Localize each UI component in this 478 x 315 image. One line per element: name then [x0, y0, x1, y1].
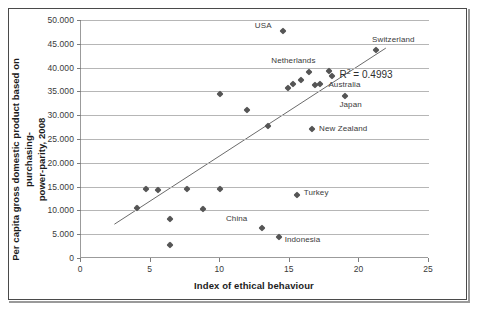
data-point	[258, 224, 265, 231]
data-point	[373, 47, 380, 54]
y-tick-label: 5.000	[52, 229, 74, 239]
x-tick-label: 25	[416, 264, 440, 274]
x-tick-label: 5	[138, 264, 162, 274]
y-tick-mark	[77, 139, 81, 140]
y-tick-label: 20.000	[47, 158, 74, 168]
data-point	[243, 107, 250, 114]
page-shadow-right	[468, 9, 470, 303]
x-axis-tick-labels: 0510152025	[80, 258, 428, 278]
y-tick-mark	[77, 115, 81, 116]
r-squared-annotation: R2 = 0.4993	[339, 68, 392, 80]
page-shadow-bottom	[9, 301, 470, 303]
x-tick-label: 10	[207, 264, 231, 274]
data-point-label: Japan	[339, 100, 361, 109]
x-tick-label: 15	[277, 264, 301, 274]
x-tick-mark	[358, 258, 359, 262]
data-point	[279, 27, 286, 34]
data-point-label: Indonesia	[285, 235, 321, 244]
data-point	[167, 215, 174, 222]
data-point-label: USA	[255, 21, 272, 30]
x-axis-title: Index of ethical behaviour	[80, 280, 428, 291]
y-tick-mark	[77, 234, 81, 235]
x-tick-mark	[80, 258, 81, 262]
y-tick-mark	[77, 163, 81, 164]
r-squared-base: R	[339, 70, 346, 81]
data-point-label: Turkey	[304, 188, 329, 197]
gridline-horizontal	[81, 210, 429, 211]
plot-area: ChinaIndonesiaUSATurkeyNetherlandsNew Ze…	[80, 20, 428, 258]
y-tick-label: 35.000	[47, 86, 74, 96]
y-tick-label: 50.000	[47, 15, 74, 25]
y-tick-mark	[77, 187, 81, 188]
data-point-label: New Zealand	[319, 124, 367, 133]
data-point	[317, 81, 324, 88]
x-tick-label: 20	[346, 264, 370, 274]
gridline-horizontal	[81, 163, 429, 164]
y-tick-label: 45.000	[47, 39, 74, 49]
gridline-horizontal	[81, 91, 429, 92]
y-tick-label: 40.000	[47, 63, 74, 73]
data-point	[200, 206, 207, 213]
y-tick-label: 15.000	[47, 182, 74, 192]
data-point-label: Netherlands	[271, 56, 315, 65]
data-point	[297, 76, 304, 83]
data-point	[342, 93, 349, 100]
y-tick-label: 0	[69, 253, 74, 263]
data-point-label: Australia	[328, 80, 360, 89]
chart-figure: Per capita gross domestic product based …	[0, 0, 478, 315]
gridline-horizontal	[81, 187, 429, 188]
data-point-label: China	[226, 214, 247, 223]
data-point	[264, 122, 271, 129]
y-tick-label: 30.000	[47, 110, 74, 120]
data-point	[293, 191, 300, 198]
y-tick-mark	[77, 91, 81, 92]
x-tick-mark	[219, 258, 220, 262]
gridline-horizontal	[81, 139, 429, 140]
y-tick-mark	[77, 20, 81, 21]
data-point	[309, 126, 316, 133]
y-tick-mark	[77, 68, 81, 69]
gridline-horizontal	[81, 115, 429, 116]
x-tick-mark	[428, 258, 429, 262]
y-tick-label: 25.000	[47, 134, 74, 144]
data-point-label: Switzerland	[372, 35, 414, 44]
y-axis-title-holder: Per capita gross domestic product based …	[0, 0, 30, 300]
data-point	[306, 69, 313, 76]
y-tick-mark	[77, 210, 81, 211]
data-point	[154, 187, 161, 194]
data-point	[328, 73, 335, 80]
y-tick-label: 10.000	[47, 205, 74, 215]
x-tick-mark	[150, 258, 151, 262]
gridline-horizontal	[81, 234, 429, 235]
r-squared-value: = 0.4993	[351, 70, 393, 81]
data-point	[167, 241, 174, 248]
x-tick-mark	[289, 258, 290, 262]
x-tick-label: 0	[68, 264, 92, 274]
y-tick-mark	[77, 44, 81, 45]
